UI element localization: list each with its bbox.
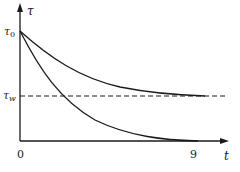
tauw-label: τw: [3, 89, 16, 103]
tau0-label: τ0: [4, 25, 15, 39]
lower-decay-curve: [20, 31, 198, 141]
x-axis-label: t: [224, 149, 229, 163]
origin-label: 0: [17, 148, 24, 161]
x-axis-arrow-icon: [220, 138, 229, 144]
y-axis-label: τ: [27, 4, 34, 18]
shear-stress-decay-diagram: τ t 0 9 τ0 τw: [0, 0, 240, 172]
upper-decay-curve: [20, 31, 205, 96]
x-tick-9: 9: [190, 148, 197, 161]
y-axis-arrow-icon: [17, 3, 23, 12]
